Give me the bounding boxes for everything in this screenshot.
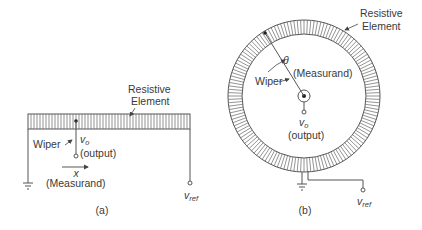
linear-potentiometer: Resistive Element vref Wiper vo (output)… — [23, 83, 199, 216]
resistive-label-a1: Resistive — [128, 83, 171, 95]
rotary-potentiometer: Resistive Element θ (Measurand) Wiper vo… — [228, 7, 403, 216]
resistive-label-b2: Element — [362, 20, 401, 32]
output-label-b: (output) — [288, 129, 324, 141]
output-symbol-a: vo — [80, 133, 89, 147]
measurand-label-a: (Measurand) — [46, 177, 106, 189]
resistive-label-b1: Resistive — [360, 7, 403, 19]
vref-label-a: vref — [184, 189, 199, 203]
caption-b: (b) — [299, 204, 312, 216]
measurand-label-b: (Measurand) — [293, 67, 353, 79]
vref-label-b: vref — [357, 195, 372, 209]
resistive-label-a2: Element — [131, 95, 170, 107]
vref-terminal-a — [188, 181, 192, 185]
output-symbol-b: vo — [299, 116, 308, 130]
vref-terminal-b — [361, 188, 365, 192]
wiper-label-b: Wiper — [255, 75, 283, 87]
ground-icon — [23, 183, 33, 189]
output-terminal-b — [302, 110, 306, 114]
angle-symbol-b: θ — [283, 54, 289, 66]
potentiometer-diagrams: Resistive Element vref Wiper vo (output)… — [0, 0, 422, 230]
caption-a: (a) — [96, 204, 109, 216]
wiper-label-a: Wiper — [33, 138, 61, 150]
ground-icon — [297, 184, 307, 190]
output-terminal-a — [74, 154, 78, 158]
output-label-a: (output) — [80, 147, 116, 159]
